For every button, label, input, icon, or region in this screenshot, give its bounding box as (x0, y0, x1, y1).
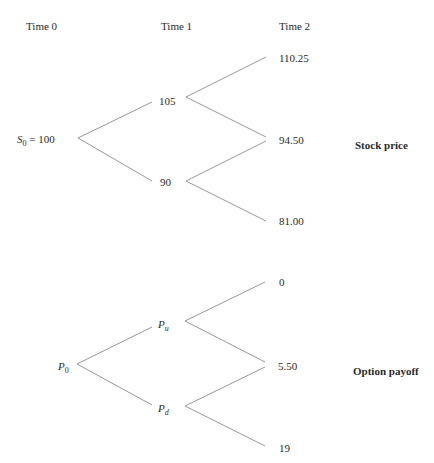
option-branch-d-down (185, 406, 265, 446)
option-node-uu: 0 (279, 276, 285, 288)
tree-lines (0, 0, 434, 463)
stock-node-ud: 94.50 (279, 134, 304, 146)
option-node-up: Pu (158, 318, 169, 335)
stock-branch-u-down (186, 97, 266, 137)
option-node-down: Pd (158, 402, 169, 419)
header-time-2: Time 2 (279, 20, 310, 32)
stock-root-label: S0 = 100 (17, 133, 55, 150)
header-time-1: Time 1 (161, 20, 192, 32)
stock-branch-d-up (186, 141, 266, 181)
option-branch-u-down (185, 321, 265, 362)
option-branch-u-up (185, 282, 265, 321)
option-branch-0-up (77, 327, 152, 364)
option-node-dd: 19 (279, 442, 290, 454)
stock-node-down: 90 (160, 176, 171, 188)
stock-branch-u-up (186, 57, 266, 97)
option-branch-0-down (77, 364, 152, 405)
header-time-0: Time 0 (26, 20, 57, 32)
stock-tree-title: Stock price (355, 139, 408, 151)
stock-node-up: 105 (159, 95, 176, 107)
stock-branch-d-down (186, 181, 266, 221)
option-node-ud: 5.50 (278, 360, 297, 372)
option-root-label: P0 (58, 360, 69, 377)
option-branch-d-up (185, 367, 265, 406)
stock-node-uu: 110.25 (279, 52, 309, 64)
stock-branch-0-down (78, 138, 152, 181)
stock-branch-0-up (78, 102, 152, 138)
option-tree-title: Option payoff (353, 365, 419, 377)
stock-node-dd: 81.00 (279, 215, 304, 227)
